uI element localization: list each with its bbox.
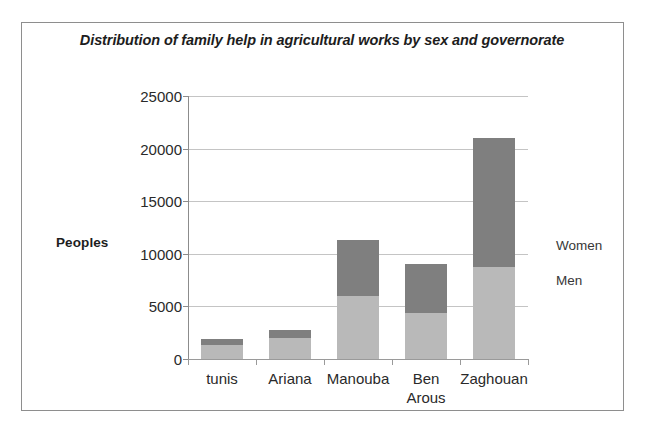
plot-area bbox=[188, 96, 528, 359]
bar-segment-women[interactable] bbox=[201, 339, 243, 345]
bar-segment-men[interactable] bbox=[473, 267, 515, 359]
y-tick-mark-10000 bbox=[183, 254, 189, 255]
bar-group[interactable] bbox=[405, 96, 447, 359]
bar-group[interactable] bbox=[473, 96, 515, 359]
bar-segment-men[interactable] bbox=[269, 338, 311, 359]
x-tick-label-zaghouan: Zaghouan bbox=[451, 369, 537, 388]
y-tick-label-5000: 5000 bbox=[112, 298, 182, 315]
x-tick-mark bbox=[256, 359, 257, 365]
y-tick-mark-25000 bbox=[183, 96, 189, 97]
bar-segment-men[interactable] bbox=[201, 345, 243, 359]
x-tick-mark bbox=[460, 359, 461, 365]
y-tick-label-25000: 25000 bbox=[112, 88, 182, 105]
x-tick-mark bbox=[392, 359, 393, 365]
y-tick-label-10000: 10000 bbox=[112, 245, 182, 262]
bar-segment-women[interactable] bbox=[269, 330, 311, 338]
x-tick-mark bbox=[324, 359, 325, 365]
x-tick-label-line: Arous bbox=[383, 388, 469, 407]
y-tick-mark-20000 bbox=[183, 149, 189, 150]
y-tick-label-0: 0 bbox=[112, 351, 182, 368]
x-tick-mark bbox=[188, 359, 189, 365]
bar-segment-men[interactable] bbox=[405, 313, 447, 359]
y-tick-mark-15000 bbox=[183, 201, 189, 202]
chart-legend: Women Men bbox=[556, 238, 622, 289]
y-axis-title: Peoples bbox=[56, 235, 108, 250]
x-tick-label-line: Zaghouan bbox=[451, 369, 537, 388]
bar-group[interactable] bbox=[201, 96, 243, 359]
y-tick-label-20000: 20000 bbox=[112, 140, 182, 157]
y-tick-label-15000: 15000 bbox=[112, 193, 182, 210]
y-axis-line bbox=[188, 96, 189, 359]
y-axis-tick-labels: 2500020000150001000050000 bbox=[110, 96, 182, 359]
y-tick-mark-5000 bbox=[183, 306, 189, 307]
bar-group[interactable] bbox=[337, 96, 379, 359]
bar-segment-women[interactable] bbox=[337, 240, 379, 296]
x-tick-mark bbox=[528, 359, 529, 365]
bar-segment-women[interactable] bbox=[473, 138, 515, 267]
legend-item-men: Men bbox=[556, 273, 622, 289]
legend-item-women: Women bbox=[556, 238, 622, 254]
bar-segment-women[interactable] bbox=[405, 264, 447, 312]
chart-title: Distribution of family help in agricultu… bbox=[62, 31, 582, 50]
x-axis-tick-labels: tunisArianaManoubaBenArousZaghouan bbox=[182, 369, 534, 415]
x-axis-tick-marks bbox=[188, 359, 529, 366]
bar-segment-men[interactable] bbox=[337, 296, 379, 359]
chart-frame: Distribution of family help in agricultu… bbox=[21, 22, 624, 411]
bar-group[interactable] bbox=[269, 96, 311, 359]
